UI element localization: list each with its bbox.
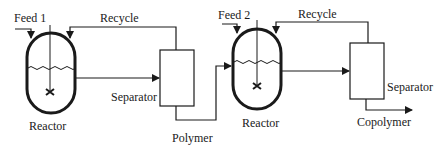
separator-1 [160, 50, 194, 106]
stage-2: Feed 2 Recycle Reactor Separator Copolym… [218, 7, 433, 130]
recycle-2-label: Recycle [298, 7, 337, 21]
reactor-1-label: Reactor [29, 119, 66, 133]
stage-1: Feed 1 Recycle Reactor Separator Polymer [14, 11, 231, 145]
feed-1-label: Feed 1 [14, 11, 46, 25]
reactor-2-label: Reactor [242, 116, 279, 130]
separator-2 [350, 43, 384, 99]
recycle-1-label: Recycle [100, 11, 139, 25]
feed-2-stream [222, 24, 237, 33]
reactor-2-liquid-surface-icon [234, 61, 282, 64]
recycle-2-stream [276, 22, 368, 43]
copolymer-stream [366, 99, 412, 110]
separator-2-label: Separator [387, 80, 433, 94]
copolymer-label: Copolymer [357, 115, 411, 129]
reactor-1-vessel [27, 33, 75, 113]
reactor-1-liquid-surface-icon [28, 67, 76, 70]
feed-2-label: Feed 2 [218, 8, 250, 22]
feed-1-stream [15, 29, 31, 38]
polymer-label: Polymer [172, 131, 213, 145]
separator-1-label: Separator [111, 90, 157, 104]
process-flow-diagram: Feed 1 Recycle Reactor Separator Polymer… [0, 0, 444, 151]
recycle-1-stream [70, 27, 176, 50]
